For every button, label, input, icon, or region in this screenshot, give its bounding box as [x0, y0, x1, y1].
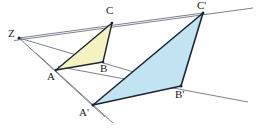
point-label-Z: Z: [8, 28, 15, 39]
geometry-figure: Z A B C A' B' C': [0, 0, 260, 132]
vertex-dot-Z: [18, 37, 21, 40]
vertex-dot-C: [111, 22, 114, 25]
point-label-C: C: [106, 5, 113, 16]
construction-lines: [14, 8, 253, 123]
point-label-B: B: [100, 63, 107, 74]
point-label-Bprime: B': [175, 89, 184, 100]
diagram-canvas: [0, 0, 260, 132]
point-label-Cprime: C': [197, 0, 206, 11]
vertex-dot-Aprime: [92, 104, 95, 107]
vertex-dot-Cprime: [202, 12, 205, 15]
point-label-A: A: [47, 71, 55, 82]
point-label-Aprime: A': [79, 107, 89, 118]
vertex-dot-A: [55, 69, 58, 72]
line-through-C-and-Cprime: [14, 8, 253, 41]
